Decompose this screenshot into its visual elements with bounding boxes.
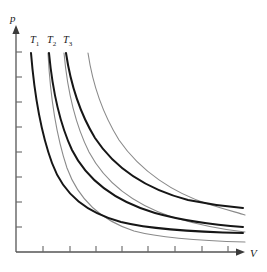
x-axis-arrowhead: [236, 249, 245, 256]
curve-label-T3: T3: [63, 34, 73, 48]
curve-T1-gray: [48, 53, 245, 242]
curve-labels-group: T1 T2 T3: [30, 34, 73, 48]
curve-T3-gray: [88, 53, 245, 215]
pressure-volume-isotherm-figure: p V T1 T2 T3: [0, 0, 267, 272]
curve-label-T2: T2: [47, 34, 57, 48]
curve-label-T1-subscript: 1: [36, 40, 40, 48]
curve-label-T1: T1: [30, 34, 40, 48]
x-axis-ticks: [43, 246, 228, 252]
curve-label-T3-subscript: 3: [69, 40, 73, 48]
isotherm-curves-group: [31, 53, 245, 242]
axes-group: [12, 25, 245, 256]
y-axis-ticks: [16, 52, 22, 227]
y-axis-arrowhead: [12, 25, 19, 34]
y-axis-label: p: [9, 12, 16, 24]
curve-label-T2-subscript: 2: [53, 40, 57, 48]
x-axis-label: V: [250, 247, 258, 259]
chart-canvas: p V T1 T2 T3: [0, 0, 267, 272]
